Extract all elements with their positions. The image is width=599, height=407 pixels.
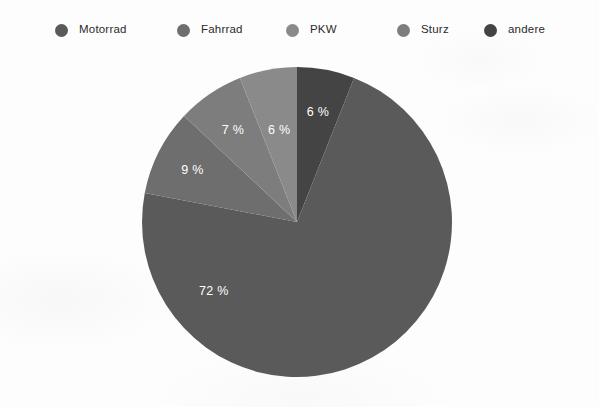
legend-swatch-icon [397,24,410,37]
pie-slice-value-label: 72 % [199,284,229,298]
pie-slice-value-label: 6 % [307,105,329,119]
legend-item-fahrrad[interactable]: Fahrrad [177,18,243,42]
legend-item-label: Fahrrad [201,24,243,36]
legend-item-pkw[interactable]: PKW [286,18,337,42]
pie-chart-area: 6 %72 %9 %7 %6 % [141,66,453,378]
legend-item-label: Motorrad [79,24,127,36]
legend-item-label: andere [508,24,545,36]
pie-slice-value-label: 9 % [181,163,203,177]
pie-slices-group [142,67,452,377]
legend-swatch-icon [484,24,497,37]
legend-item-label: PKW [310,24,337,36]
legend-item-andere[interactable]: andere [484,18,545,42]
pie-slice-value-label: 7 % [222,123,244,137]
legend-item-label: Sturz [421,24,449,36]
legend-item-sturz[interactable]: Sturz [397,18,449,42]
legend-swatch-icon [177,24,190,37]
legend-swatch-icon [286,24,299,37]
pie-chart-figure: MotorradFahrradPKWSturzandere 6 %72 %9 %… [0,0,599,407]
pie-slice-value-label: 6 % [268,123,290,137]
legend-item-motorrad[interactable]: Motorrad [55,18,127,42]
pie-svg: 6 %72 %9 %7 %6 % [141,66,453,378]
legend-swatch-icon [55,24,68,37]
chart-legend: MotorradFahrradPKWSturzandere [0,18,599,42]
